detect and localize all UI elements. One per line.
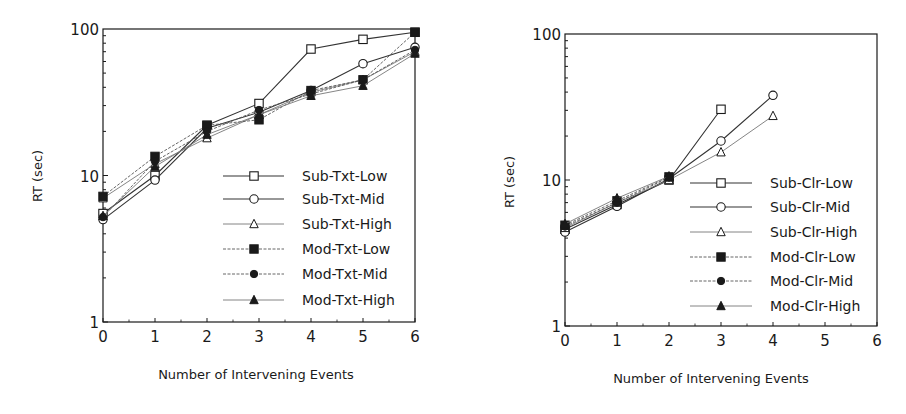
x-tick-label: 4 xyxy=(768,332,778,350)
legend-label: Sub-Clr-Mid xyxy=(770,199,850,215)
legend-item: Mod-Txt-High xyxy=(223,292,395,308)
x-tick-label: 0 xyxy=(98,328,108,346)
legend-label: Sub-Clr-High xyxy=(770,224,857,240)
x-tick-label: 3 xyxy=(254,328,264,346)
triangle-filled-icon xyxy=(250,295,258,303)
legend-item: Sub-Txt-High xyxy=(223,216,392,232)
y-tick-label: 10 xyxy=(80,168,99,186)
data-point-marker xyxy=(411,28,419,36)
data-point-marker xyxy=(359,59,367,67)
x-tick-label: 0 xyxy=(560,332,570,350)
legend-label: Mod-Txt-Mid xyxy=(302,266,388,282)
x-tick-label: 3 xyxy=(716,332,726,350)
x-axis-label: Number of Intervening Events xyxy=(158,367,354,382)
chart-left: 110100 0123456 Sub-Txt-LowSub-Txt-MidSub… xyxy=(30,21,420,382)
y-tick-label: 10 xyxy=(542,172,561,190)
y-axis-ticks: 110100 xyxy=(70,21,108,332)
legend-label: Mod-Clr-Mid xyxy=(770,273,853,289)
series-line xyxy=(565,109,721,229)
legend-item: Mod-Txt-Low xyxy=(223,241,390,257)
y-tick-label: 100 xyxy=(70,21,99,39)
data-point-marker xyxy=(99,192,107,200)
data-point-marker xyxy=(307,45,315,53)
legend-item: Sub-Txt-Low xyxy=(223,168,387,184)
circle-filled-icon xyxy=(250,270,257,277)
circle-filled-icon xyxy=(717,277,724,284)
data-point-marker xyxy=(151,176,159,184)
y-axis-label: RT (sec) xyxy=(502,156,517,208)
legend-item: Mod-Clr-High xyxy=(690,298,860,314)
data-point-marker xyxy=(717,105,725,113)
y-axis-ticks: 110100 xyxy=(532,26,570,336)
figure: 110100 0123456 Sub-Txt-LowSub-Txt-MidSub… xyxy=(0,0,906,414)
data-point-marker xyxy=(359,35,367,43)
series-line xyxy=(565,95,773,232)
legend-item: Mod-Clr-Low xyxy=(690,249,856,265)
data-point-marker xyxy=(717,148,725,156)
square-open-icon xyxy=(250,172,258,180)
x-tick-label: 4 xyxy=(306,328,316,346)
legend: Sub-Clr-LowSub-Clr-MidSub-Clr-HighMod-Cl… xyxy=(690,175,860,314)
x-tick-label: 1 xyxy=(612,332,622,350)
y-axis-label: RT (sec) xyxy=(30,150,45,202)
data-point-marker xyxy=(769,91,777,99)
x-tick-label: 1 xyxy=(150,328,160,346)
triangle-filled-icon xyxy=(717,301,725,309)
x-tick-label: 6 xyxy=(872,332,882,350)
triangle-open-icon xyxy=(250,219,258,227)
legend-label: Mod-Clr-High xyxy=(770,298,860,314)
x-tick-label: 2 xyxy=(202,328,212,346)
legend-label: Mod-Clr-Low xyxy=(770,249,856,265)
legend-label: Sub-Txt-High xyxy=(302,216,392,232)
x-axis-label: Number of Intervening Events xyxy=(613,371,809,386)
legend-label: Mod-Txt-High xyxy=(302,292,395,308)
chart-right: 110100 0123456 Sub-Clr-LowSub-Clr-MidSub… xyxy=(502,26,882,386)
x-tick-label: 5 xyxy=(358,328,368,346)
triangle-open-icon xyxy=(717,227,725,235)
circle-open-icon xyxy=(717,203,725,211)
data-point-marker xyxy=(717,137,725,145)
y-tick-label: 100 xyxy=(532,26,561,44)
legend-item: Sub-Clr-Mid xyxy=(690,199,850,215)
legend: Sub-Txt-LowSub-Txt-MidSub-Txt-HighMod-Tx… xyxy=(223,168,395,308)
legend-label: Sub-Clr-Low xyxy=(770,175,853,191)
square-filled-icon xyxy=(250,245,258,253)
legend-label: Mod-Txt-Low xyxy=(302,241,390,257)
legend-item: Mod-Clr-Mid xyxy=(690,273,853,289)
legend-item: Sub-Txt-Mid xyxy=(223,191,385,207)
square-open-icon xyxy=(717,179,725,187)
series-layer xyxy=(561,91,777,236)
x-tick-label: 2 xyxy=(664,332,674,350)
x-tick-label: 6 xyxy=(410,328,420,346)
legend-item: Mod-Txt-Mid xyxy=(223,266,388,282)
figure-canvas: 110100 0123456 Sub-Txt-LowSub-Txt-MidSub… xyxy=(0,0,906,414)
legend-label: Sub-Txt-Mid xyxy=(302,191,385,207)
legend-item: Sub-Clr-Low xyxy=(690,175,853,191)
data-point-marker xyxy=(769,111,777,119)
legend-item: Sub-Clr-High xyxy=(690,224,857,240)
square-filled-icon xyxy=(717,253,725,261)
circle-open-icon xyxy=(250,195,258,203)
legend-label: Sub-Txt-Low xyxy=(302,168,387,184)
x-tick-label: 5 xyxy=(820,332,830,350)
